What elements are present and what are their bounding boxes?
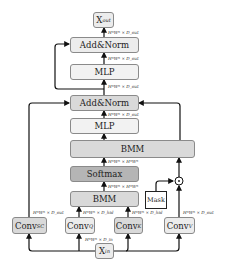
conv-v-node: ConvV <box>164 217 195 234</box>
x-out-node: Xout <box>93 12 114 28</box>
edge-label-to-mlp-top: H*W* × D_out <box>108 84 139 89</box>
conv-v-label: Conv <box>167 221 189 231</box>
edge-label-to-softmax: H*W* × H*W* <box>108 184 138 189</box>
edge-label-to-bmm-big: H*W* × H*W* <box>108 159 138 164</box>
conv-q-label: Conv <box>67 221 89 231</box>
bmm-small-node: BMM <box>70 191 139 207</box>
conv-k-node: ConvK <box>114 217 143 234</box>
conv-k-label: Conv <box>116 221 138 231</box>
bmm-big-node: BMM <box>70 140 195 158</box>
conv-sc-node: ConvSC <box>12 217 47 234</box>
addnorm-mid-node: Add&Norm <box>70 95 139 111</box>
conv-q-node: ConvQ <box>65 217 95 234</box>
conv-k-sub: K <box>138 223 142 229</box>
edge-label-conv-v-out: H*W* × D_out <box>183 210 214 215</box>
edge-label-to-addnorm-mid: H*W* × D_out <box>108 112 139 117</box>
conv-sc-sub: SC <box>37 223 44 229</box>
x-in-node: Xin <box>95 243 114 259</box>
addnorm-top-node: Add&Norm <box>70 37 139 53</box>
softmax-node: Softmax <box>70 166 139 182</box>
conv-q-sub: Q <box>89 223 93 229</box>
edge-label-to-xout: H*W* × D_out <box>108 30 139 35</box>
edge-label-conv-q-out: H*W* × D_hid <box>83 210 113 215</box>
conv-v-sub: V <box>189 223 193 229</box>
mlp-top-node: MLP <box>70 64 139 80</box>
edge-label-conv-k-out: H*W* × D_hid <box>132 210 162 215</box>
x-in-sub: in <box>105 248 110 254</box>
edge-label-conv-sc-out: H*W* × D_out <box>33 210 64 215</box>
edge-label-to-addnorm-top: H*W* × D_out <box>108 56 139 61</box>
conv-sc-label: Conv <box>15 221 37 231</box>
mask-node: Mask <box>145 191 167 209</box>
mlp-mid-node: MLP <box>70 118 139 134</box>
edge-label-x-in-out: H*W* × D_in <box>85 237 113 242</box>
x-out-sub: out <box>102 17 110 23</box>
